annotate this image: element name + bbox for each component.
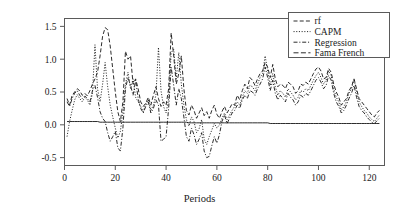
legend-label-rf: rf: [315, 16, 322, 26]
y-tick-label: 0.5: [45, 87, 57, 97]
legend-label-regression: Regression: [315, 38, 357, 48]
x-tick-label: 80: [263, 173, 273, 183]
y-tick-label: 0.0: [45, 120, 57, 130]
chart-figure: Observed returns 020406080100120-0.50.00…: [0, 0, 399, 218]
x-tick-label: 20: [111, 173, 121, 183]
y-tick-label: -0.5: [41, 153, 56, 163]
x-tick-label: 60: [212, 173, 222, 183]
x-tick-label: 100: [311, 173, 326, 183]
chart-legend: rfCAPMRegressionFama French: [289, 13, 390, 59]
x-tick-label: 0: [62, 173, 67, 183]
x-tick-label: 120: [362, 173, 377, 183]
y-tick-label: 1.5: [45, 22, 57, 32]
legend-label-fama-french: Fama French: [315, 48, 365, 58]
y-tick-label: 1.0: [45, 55, 57, 65]
x-axis-label: Periods: [0, 193, 399, 204]
legend-label-capm: CAPM: [315, 27, 342, 37]
chart-plot-area: 020406080100120-0.50.00.51.01.5 rfCAPMRe…: [0, 0, 399, 218]
x-tick-label: 40: [161, 173, 171, 183]
